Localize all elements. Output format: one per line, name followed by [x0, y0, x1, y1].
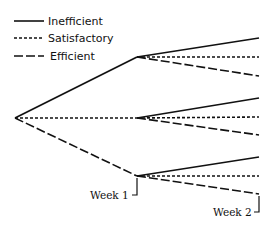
week2-marker: Week 2 [213, 196, 259, 218]
tree-diagram: Inefficient Satisfactory Efficient Week … [0, 0, 273, 228]
week2-branches-top [137, 38, 259, 76]
branch-efficient [15, 118, 137, 176]
week2-label: Week 2 [213, 206, 252, 218]
legend: Inefficient Satisfactory Efficient [14, 15, 114, 63]
week1-label: Week 1 [90, 189, 129, 201]
legend-label-satisfactory: Satisfactory [48, 32, 114, 45]
week2-branches-middle [137, 98, 259, 135]
week2-branches-bottom [137, 157, 259, 194]
week1-marker: Week 1 [90, 178, 137, 201]
branch-inefficient [15, 57, 137, 118]
legend-label-efficient: Efficient [50, 50, 95, 63]
legend-label-inefficient: Inefficient [48, 15, 103, 28]
week1-branches [15, 57, 137, 176]
